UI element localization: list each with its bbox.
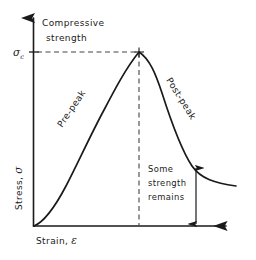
diagram-canvas: Compressive strength σc Pre-peak Post-pe…: [0, 0, 256, 260]
annotation-compressive-line1: Compressive: [42, 18, 105, 28]
stress-strain-diagram: Compressive strength σc Pre-peak Post-pe…: [0, 0, 256, 260]
annotation-pre-peak: Pre-peak: [55, 88, 87, 129]
annotation-some-line2: strength: [148, 178, 186, 188]
annotation-some-line3: remains: [148, 192, 185, 202]
annotation-compressive-line2: strength: [46, 33, 87, 43]
x-axis-label: Strain,ε: [36, 234, 77, 246]
stress-strain-curve: [34, 52, 236, 226]
annotation-some-line1: Some: [148, 164, 173, 174]
y-tick-sigma-c: σc: [13, 46, 24, 61]
y-axis-label: Stress,σ: [12, 166, 24, 210]
